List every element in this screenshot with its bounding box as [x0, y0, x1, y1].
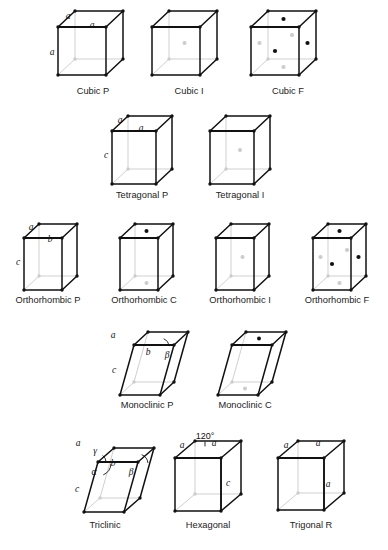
- top-edge: [62, 224, 77, 238]
- angle-arc-gamma: [103, 455, 106, 462]
- lattice-point-corner: [172, 380, 175, 383]
- lattice-point-corner: [60, 236, 63, 239]
- lattice-point-corner-hidden: [296, 491, 299, 494]
- lattice-point-corner: [156, 236, 159, 239]
- lattice-point-corner: [252, 236, 255, 239]
- lattice-point-corner: [252, 288, 255, 291]
- unit-cell-monoclinic-p: abcβMonoclinic P: [111, 330, 190, 410]
- lattice-point-corner: [173, 456, 176, 459]
- lattice-point-corner: [364, 222, 367, 225]
- lattice-point-corner: [252, 182, 255, 185]
- lattice-point-corner: [60, 288, 63, 291]
- lattice-point-corner: [154, 182, 157, 185]
- hidden-edge: [24, 276, 39, 290]
- lattice-point-corner: [216, 393, 219, 396]
- lattice-point-corner: [296, 439, 299, 442]
- unit-cell-orthorhombic-p: abcOrthorhombic P: [15, 222, 80, 305]
- top-edge: [106, 11, 123, 27]
- lattice-point-corner: [126, 114, 129, 117]
- lattice-point-face-center-left: [318, 255, 322, 259]
- lattice-point-corner: [342, 439, 345, 442]
- lattice-point-corner: [56, 25, 59, 28]
- lattice-point-corner: [349, 236, 352, 239]
- lattice-point-corner: [229, 222, 232, 225]
- lattice-point-corner-hidden: [37, 274, 40, 277]
- top-edge: [200, 11, 217, 27]
- lattice-point-corner: [268, 167, 271, 170]
- lattice-point-corner: [239, 439, 242, 442]
- lattice-point-corner: [158, 393, 161, 396]
- unit-cell-hexagonal: aac120°Hexagonal: [173, 431, 242, 530]
- lattice-point-face-center-back: [290, 33, 294, 37]
- hidden-edge: [278, 493, 298, 510]
- lattice-point-corner: [224, 114, 227, 117]
- lattice-point-corner: [311, 288, 314, 291]
- unit-cell-orthorhombic-c: Orthorhombic C: [111, 222, 177, 305]
- lattice-row-tetragonal-row: aacTetragonal PTetragonal I: [104, 114, 272, 200]
- lattice-point-corner-hidden: [266, 57, 269, 60]
- front-edge: [218, 345, 232, 395]
- unit-cell-triclinic: abcγαβTriclinic: [75, 438, 156, 530]
- side-edge: [254, 169, 270, 184]
- lattice-point-face-center-back: [345, 248, 349, 252]
- edge-label-b-1: b: [146, 347, 151, 357]
- bravais-lattice-figure: aaaCubic PCubic ICubic FaacTetragonal PT…: [0, 0, 388, 550]
- lattice-point-corner: [150, 73, 153, 76]
- lattice-point-corner-hidden: [193, 492, 196, 495]
- lattice-point-corner: [56, 73, 59, 76]
- edge-label-a-0: a: [180, 440, 185, 450]
- lattice-point-corner: [132, 343, 135, 346]
- top-edge: [175, 441, 195, 458]
- lattice-point-corner: [146, 330, 149, 333]
- lattice-point-corner: [112, 446, 115, 449]
- top-edge: [254, 116, 270, 131]
- edge-label-a-0: a: [118, 115, 123, 125]
- lattice-point-corner: [171, 222, 174, 225]
- cell-caption-orthorhombic-p: Orthorhombic P: [15, 295, 80, 305]
- lattice-point-corner: [349, 288, 352, 291]
- lattice-point-corner: [364, 274, 367, 277]
- cell-caption-cubic-i: Cubic I: [175, 86, 204, 96]
- side-edge: [140, 448, 154, 498]
- lattice-point-corner: [171, 274, 174, 277]
- edge-label-b-1: b: [48, 234, 53, 244]
- lattice-point-corner: [252, 129, 255, 132]
- unit-cell-monoclinic-c: Monoclinic C: [216, 330, 287, 410]
- lattice-point-corner-hidden: [167, 57, 170, 60]
- lattice-point-corner: [256, 393, 259, 396]
- top-edge: [251, 11, 268, 27]
- lattice-point-corner: [154, 129, 157, 132]
- lattice-point-corner: [104, 73, 107, 76]
- lattice-point-corner: [208, 129, 211, 132]
- lattice-point-corner: [276, 508, 279, 511]
- edge-label-a-0: a: [76, 438, 81, 448]
- lattice-point-corner: [326, 222, 329, 225]
- lattice-point-corner: [96, 460, 99, 463]
- lattice-row-triclinic-row: abcγαβTriclinicaac120°HexagonalaaaTrigon…: [75, 431, 346, 530]
- lattice-point-face-center-left: [257, 41, 261, 45]
- lattice-point-corner: [276, 456, 279, 459]
- lattice-point-corner: [122, 510, 125, 513]
- side-edge: [158, 276, 173, 290]
- lattice-point-corner: [170, 167, 173, 170]
- edge-label-a-1: a: [90, 20, 95, 30]
- lattice-point-corner-hidden: [132, 380, 135, 383]
- lattice-point-corner-hidden: [326, 274, 329, 277]
- lattice-point-body-center: [238, 148, 242, 152]
- lattice-point-corner: [270, 380, 273, 383]
- lattice-point-corner: [82, 510, 85, 513]
- unit-cell-trigonal-r: aaaTrigonal R: [276, 438, 345, 530]
- lattice-point-corner-hidden: [126, 167, 129, 170]
- lattice-point-corner: [138, 496, 141, 499]
- top-edge: [324, 441, 344, 458]
- edge-label-a-2: a: [50, 47, 55, 57]
- side-edge: [324, 493, 344, 510]
- angle-label-0: γ: [93, 446, 97, 456]
- lattice-point-corner: [214, 288, 217, 291]
- cell-caption-cubic-p: Cubic P: [77, 86, 110, 96]
- lattice-point-corner: [267, 222, 270, 225]
- unit-cell-cubic-p: aaaCubic P: [50, 9, 125, 96]
- lattice-point-corner: [150, 25, 153, 28]
- lattice-point-corner: [170, 114, 173, 117]
- lattice-point-corner: [219, 509, 222, 512]
